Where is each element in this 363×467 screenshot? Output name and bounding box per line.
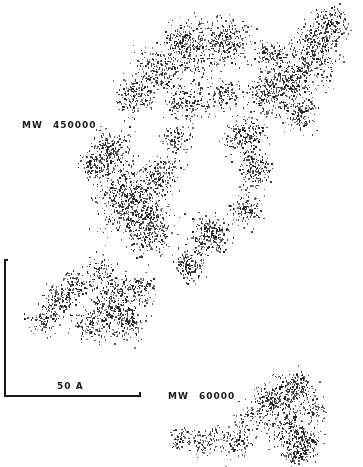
- scale-bar-top-tick: [4, 259, 8, 261]
- polymer-conformation-figure: MW450000 MW60000 50 A: [0, 0, 363, 467]
- label-mw-60000: MW60000: [168, 391, 235, 401]
- label-prefix: MW: [22, 120, 43, 130]
- scale-bar-label: 50 A: [57, 381, 84, 391]
- label-mw-450000: MW450000: [22, 120, 96, 130]
- label-prefix: MW: [168, 391, 189, 401]
- scale-bar-vertical: [4, 259, 6, 397]
- scale-bar-horizontal: [4, 395, 141, 397]
- label-value: 450000: [53, 120, 97, 130]
- label-value: 60000: [199, 391, 235, 401]
- scale-bar-end-tick: [139, 392, 141, 397]
